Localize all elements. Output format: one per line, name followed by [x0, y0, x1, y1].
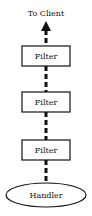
handler-ellipse: Handler [6, 183, 86, 207]
filter-box-2: Filter [22, 92, 70, 112]
arrow-up-icon [41, 21, 51, 31]
filter-chain-diagram: To Client Filter Filter Filter Handler [0, 0, 92, 216]
filter-label: Filter [35, 146, 58, 155]
to-client-label: To Client [28, 9, 65, 18]
filter-label: Filter [35, 98, 58, 107]
filter-box-1: Filter [22, 46, 70, 66]
handler-label: Handler [29, 191, 62, 200]
filter-box-3: Filter [22, 140, 70, 160]
filter-label: Filter [35, 52, 58, 61]
